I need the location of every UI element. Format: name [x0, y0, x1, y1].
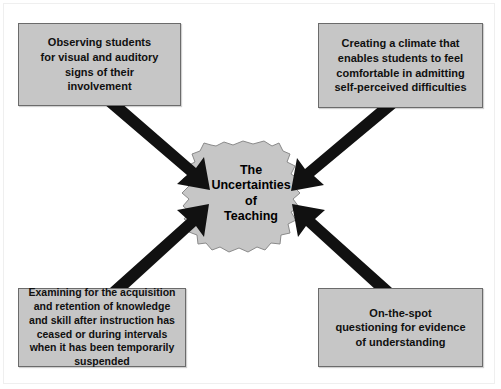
arrow-observing-to-center — [104, 102, 210, 190]
arrow-climate-to-center — [291, 104, 398, 191]
node-box-examining-label: Examining for the acquisition and retent… — [22, 286, 181, 370]
node-box-onthespot-label: On-the-spot questioning for evidence of … — [329, 306, 471, 350]
node-box-observing[interactable]: Observing students for visual and audito… — [18, 23, 181, 106]
node-box-observing-label: Observing students for visual and audito… — [35, 35, 165, 94]
node-box-onthespot[interactable]: On-the-spot questioning for evidence of … — [318, 288, 483, 367]
arrow-onthespot-to-center — [292, 204, 392, 290]
node-box-climate-label: Creating a climate that enables students… — [328, 36, 472, 95]
node-box-examining[interactable]: Examining for the acquisition and retent… — [18, 288, 186, 367]
arrow-examining-to-center — [110, 204, 209, 290]
center-blob-shape — [182, 141, 300, 252]
diagram-canvas: Observing students for visual and audito… — [0, 0, 501, 389]
node-box-climate[interactable]: Creating a climate that enables students… — [318, 23, 483, 108]
